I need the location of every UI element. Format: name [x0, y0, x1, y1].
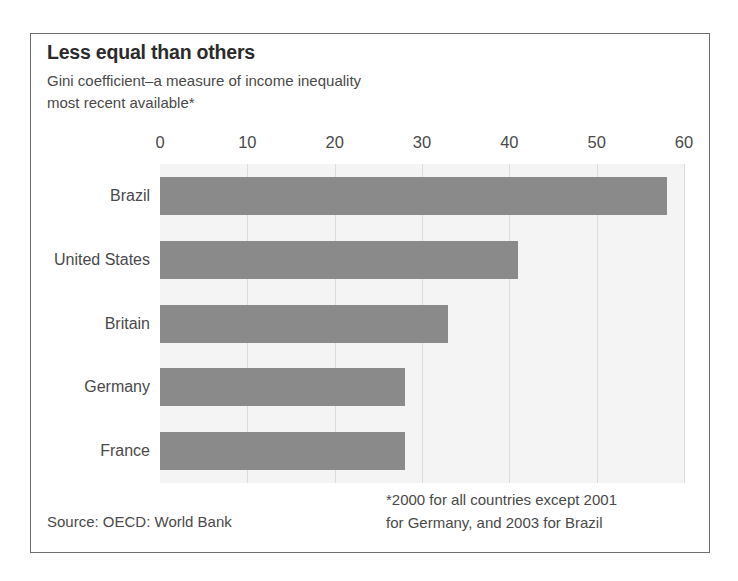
category-label-britain: Britain [105, 305, 150, 343]
bar-row: Britain [160, 292, 684, 356]
plot-area: BrazilUnited StatesBritainGermanyFrance [160, 164, 684, 483]
x-tick-label-60: 60 [675, 133, 693, 152]
x-tick-label-20: 20 [325, 133, 343, 152]
footnote: *2000 for all countries except 2001 for … [386, 489, 696, 534]
gridline-60 [684, 164, 685, 483]
source-note: Source: OECD: World Bank [47, 513, 232, 530]
bar-germany [160, 368, 405, 406]
plot-wrapper: 0102030405060 BrazilUnited StatesBritain… [31, 34, 711, 554]
x-axis: 0102030405060 [160, 133, 684, 159]
category-label-germany: Germany [84, 368, 150, 406]
x-tick-label-0: 0 [155, 133, 164, 152]
category-label-brazil: Brazil [110, 177, 150, 215]
footnote-line-2: for Germany, and 2003 for Brazil [386, 512, 696, 535]
bar-row: France [160, 419, 684, 483]
x-tick-label-50: 50 [587, 133, 605, 152]
x-tick-label-40: 40 [500, 133, 518, 152]
bar-row: United States [160, 228, 684, 292]
bar-britain [160, 305, 448, 343]
footnote-line-1: *2000 for all countries except 2001 [386, 489, 696, 512]
chart-figure: Less equal than others Gini coefficient–… [30, 33, 710, 553]
bar-row: Brazil [160, 164, 684, 228]
x-tick-label-10: 10 [238, 133, 256, 152]
category-label-france: France [100, 432, 150, 470]
x-tick-label-30: 30 [413, 133, 431, 152]
bar-row: Germany [160, 355, 684, 419]
bar-united-states [160, 241, 518, 279]
category-label-united-states: United States [54, 241, 150, 279]
bar-brazil [160, 177, 667, 215]
bar-france [160, 432, 405, 470]
